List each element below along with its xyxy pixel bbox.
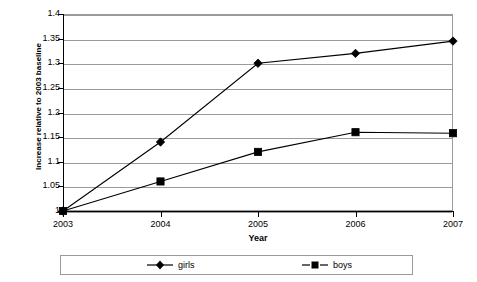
legend-label-boys: boys <box>333 260 352 270</box>
x-tickmark <box>258 212 259 217</box>
legend-key-square-icon <box>301 259 329 271</box>
x-tick-label: 2005 <box>228 219 288 229</box>
y-tick-label: 1.2 <box>14 108 60 117</box>
y-tick-label: 1.35 <box>14 34 60 43</box>
x-tickmark <box>453 212 454 217</box>
y-tick-label: 1.25 <box>14 83 60 92</box>
y-tickmark <box>58 14 63 15</box>
legend-key-diamond-icon <box>146 259 174 271</box>
y-tick-label: 1.05 <box>14 181 60 190</box>
gridline <box>64 64 452 65</box>
legend-item-boys: boys <box>301 256 352 274</box>
y-tick-label: 1 <box>14 206 60 215</box>
y-tickmark <box>58 63 63 64</box>
gridline <box>64 138 452 139</box>
y-tick-label: 1.4 <box>14 9 60 18</box>
line-chart: Increase relative to 2003 baseline 1.41.… <box>0 0 477 282</box>
y-tick-label: 1.3 <box>14 58 60 67</box>
legend-item-girls: girls <box>146 256 195 274</box>
legend: girls boys <box>60 255 413 275</box>
x-tick-label: 2004 <box>131 219 191 229</box>
y-tickmark <box>58 39 63 40</box>
y-tick-label: 1.15 <box>14 132 60 141</box>
gridline <box>64 89 452 90</box>
gridline <box>64 114 452 115</box>
x-tickmark <box>63 212 64 217</box>
x-tick-label: 2007 <box>423 219 477 229</box>
y-axis-line <box>63 14 64 211</box>
gridline <box>64 15 452 16</box>
gridline <box>64 187 452 188</box>
y-tickmark <box>58 137 63 138</box>
y-axis-tick-labels: 1.41.351.31.251.21.151.11.051 <box>10 0 60 282</box>
gridline <box>64 163 452 164</box>
y-tick-label: 1.1 <box>14 157 60 166</box>
gridline <box>64 40 452 41</box>
y-tickmark <box>58 113 63 114</box>
plot-area <box>63 14 453 211</box>
x-tickmark <box>161 212 162 217</box>
x-tick-label: 2006 <box>326 219 386 229</box>
x-tickmark <box>356 212 357 217</box>
y-tickmark <box>58 186 63 187</box>
legend-label-girls: girls <box>178 260 195 270</box>
y-tickmark <box>58 162 63 163</box>
x-axis-title: Year <box>63 233 453 243</box>
x-tick-label: 2003 <box>33 219 93 229</box>
y-tickmark <box>58 88 63 89</box>
